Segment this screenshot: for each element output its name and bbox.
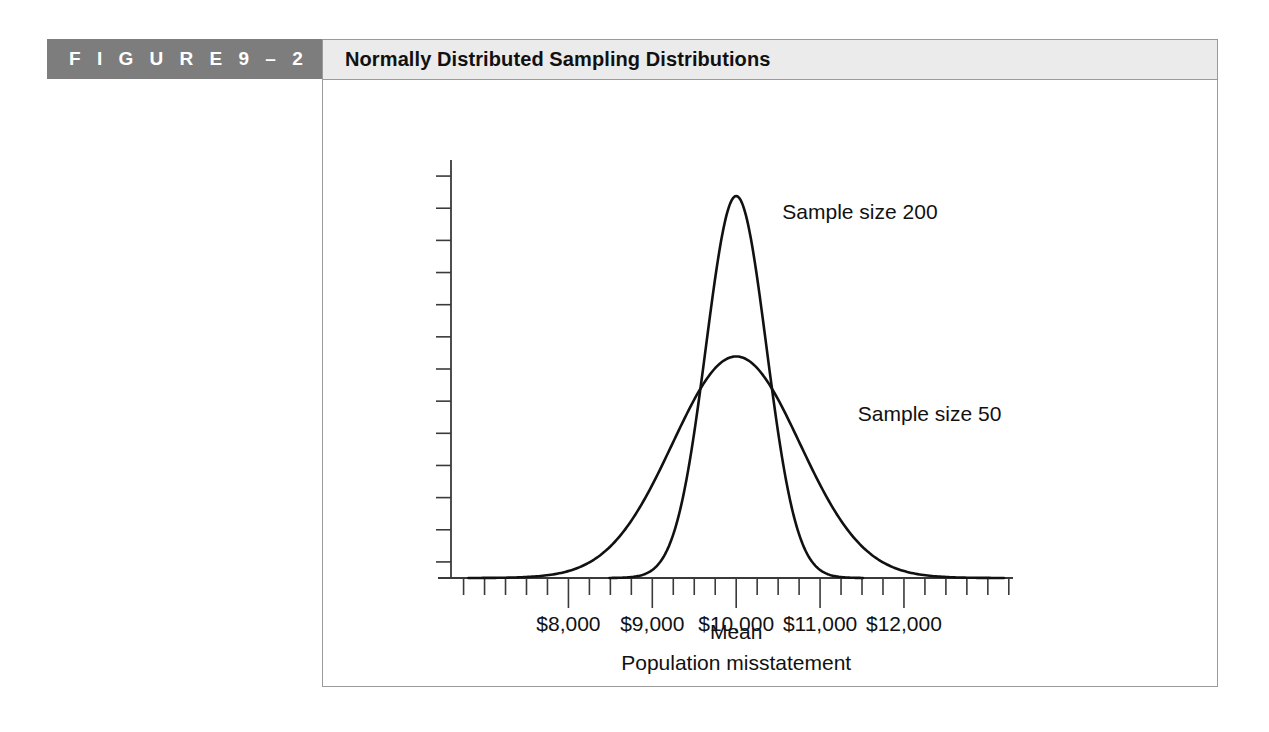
x-axis-tick-label: $12,000 xyxy=(866,612,942,635)
x-axis-tick-label: $9,000 xyxy=(620,612,684,635)
series-label-sample-size-200: Sample size 200 xyxy=(782,200,937,223)
curve-sample-size-50 xyxy=(468,356,1003,578)
mean-annotation: Mean xyxy=(710,620,763,643)
figure-title-bar: Normally Distributed Sampling Distributi… xyxy=(323,40,1217,80)
y-axis-ticks xyxy=(436,176,451,562)
figure-content-frame: Normally Distributed Sampling Distributi… xyxy=(322,39,1218,687)
series-label-sample-size-50: Sample size 50 xyxy=(858,402,1002,425)
figure-number-banner: F I G U R E 9 – 2 xyxy=(47,39,323,79)
x-axis-tick-label: $11,000 xyxy=(783,612,857,635)
x-axis xyxy=(438,578,1013,608)
x-axis-tick-label: $8,000 xyxy=(536,612,600,635)
x-axis-ticks xyxy=(464,578,1009,608)
sampling-distribution-chart: $8,000$9,000$10,000$11,000$12,000 Sample… xyxy=(323,80,1217,686)
figure-page: F I G U R E 9 – 2 Normally Distributed S… xyxy=(0,0,1269,732)
y-axis xyxy=(436,160,451,578)
curve-sample-size-200 xyxy=(609,196,863,578)
x-axis-title: Population misstatement xyxy=(621,651,851,674)
figure-title: Normally Distributed Sampling Distributi… xyxy=(345,48,770,71)
chart-area: $8,000$9,000$10,000$11,000$12,000 Sample… xyxy=(323,80,1217,686)
